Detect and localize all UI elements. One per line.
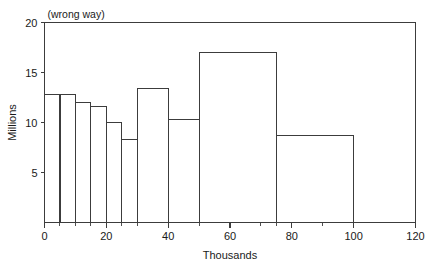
histogram-bar [276,136,353,223]
histogram-bar [199,53,276,223]
x-tick-label: 100 [344,230,362,242]
histogram-bar [60,95,75,223]
x-axis-title: Thousands [203,249,258,261]
y-tick-label: 10 [25,117,37,129]
histogram-bar [106,123,121,223]
x-tick-label: 20 [100,230,112,242]
x-tick-label: 120 [406,230,424,242]
histogram-bar [168,120,199,223]
histogram-bar [45,95,60,223]
chart-canvas: 5101520020406080100120ThousandsMillions(… [0,0,431,267]
x-tick-label: 40 [162,230,174,242]
y-tick-label: 15 [25,67,37,79]
x-tick-label: 0 [41,230,47,242]
histogram-bar [137,89,168,223]
histogram-bar [122,140,137,223]
chart-annotation: (wrong way) [48,8,105,20]
histogram-chart: 5101520020406080100120ThousandsMillions(… [0,0,431,267]
x-tick-label: 60 [224,230,236,242]
histogram-bar [75,103,90,223]
y-tick-label: 5 [31,167,37,179]
x-tick-label: 80 [286,230,298,242]
y-tick-label: 20 [25,17,37,29]
y-axis-title: Millions [6,104,18,141]
histogram-bar [91,107,106,223]
